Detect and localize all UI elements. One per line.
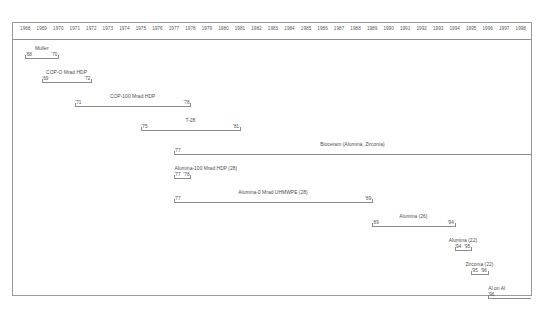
timeline-row: Alumina (22)'94'95 <box>13 232 531 256</box>
timeline-bar-end-cap <box>488 271 489 275</box>
timeline-row: Bioceram (Alumina, Zirconia)'77 <box>13 136 531 160</box>
year-tick-1979: 1979 <box>202 26 212 32</box>
year-tick-1990: 1990 <box>383 26 393 32</box>
timeline-end-year: '70 <box>51 52 57 58</box>
timeline-bar <box>174 154 531 155</box>
year-tick-1994: 1994 <box>449 26 459 32</box>
timeline-label: COP-O Mrad HDP <box>46 69 87 76</box>
timeline-end-year: '81 <box>233 124 239 130</box>
timeline-label: COP-100 Mrad HDP <box>110 93 155 100</box>
year-tick-1983: 1983 <box>268 26 278 32</box>
timeline-label: Alumina (22) <box>449 237 477 244</box>
timeline-start-year: '94 <box>455 244 461 250</box>
timeline-bar <box>488 298 531 299</box>
timeline-bar <box>25 58 58 59</box>
timeline-row: Al on Al'96 <box>13 280 531 304</box>
timeline-end-year: '78 <box>183 172 189 178</box>
timeline-start-year: '77 <box>174 148 180 154</box>
timeline-end-year: '95 <box>464 244 470 250</box>
timeline-bar-end-cap <box>240 127 241 131</box>
year-tick-1974: 1974 <box>119 26 129 32</box>
timeline-start-year: '68 <box>26 52 32 58</box>
timeline-bar-end-cap <box>58 55 59 59</box>
year-tick-1980: 1980 <box>218 26 228 32</box>
timeline-label: T-28 <box>185 117 195 124</box>
timeline-start-year: '71 <box>75 100 81 106</box>
year-tick-1992: 1992 <box>416 26 426 32</box>
year-tick-1970: 1970 <box>53 26 63 32</box>
timeline-bar-end-cap <box>471 247 472 251</box>
timeline-end-year: '94 <box>448 220 454 226</box>
timeline-row: Muller'68'70 <box>13 40 531 64</box>
year-tick-1977: 1977 <box>169 26 179 32</box>
year-tick-1998: 1998 <box>516 26 526 32</box>
timeline-bar-end-cap <box>190 175 191 179</box>
timeline-bar <box>42 82 92 83</box>
year-tick-1981: 1981 <box>235 26 245 32</box>
timeline-start-year: '95 <box>472 268 478 274</box>
year-tick-1975: 1975 <box>136 26 146 32</box>
year-tick-1986: 1986 <box>317 26 327 32</box>
timeline-end-year: '72 <box>84 76 90 82</box>
timeline-start-year: '96 <box>488 292 494 298</box>
year-tick-1968: 1968 <box>20 26 30 32</box>
timeline-label: Alumina (26) <box>399 213 427 220</box>
timeline-row: Alumina-0 Mrad UHMWPE (28)'77'89 <box>13 184 531 208</box>
timeline-label: Alumina-100 Mrad HDP (28) <box>174 165 237 172</box>
year-tick-1984: 1984 <box>284 26 294 32</box>
timeline-row: Alumina-100 Mrad HDP (28)'77'78 <box>13 160 531 184</box>
year-axis: 1968196919701971197219731974197519761977… <box>13 23 531 40</box>
timeline-row: T-28'75'81 <box>13 112 531 136</box>
year-tick-1976: 1976 <box>152 26 162 32</box>
timeline-bar <box>174 202 372 203</box>
year-tick-1993: 1993 <box>433 26 443 32</box>
timeline-label: Zirconia (22) <box>465 261 493 268</box>
timeline-row: Alumina (26)'89'94 <box>13 208 531 232</box>
timeline-bar <box>455 250 472 251</box>
timeline-label: Al on Al <box>488 285 505 292</box>
timeline-rows: Muller'68'70COP-O Mrad HDP'69'72COP-100 … <box>13 40 531 295</box>
timeline-bar-end-cap <box>372 199 373 203</box>
timeline-end-year: '89 <box>365 196 371 202</box>
year-tick-1972: 1972 <box>86 26 96 32</box>
timeline-end-year: '78 <box>183 100 189 106</box>
timeline-start-year: '77 <box>174 172 180 178</box>
timeline-row: COP-100 Mrad HDP'71'78 <box>13 88 531 112</box>
timeline-bar <box>75 106 191 107</box>
timeline-bar <box>141 130 240 131</box>
timeline-start-year: '89 <box>373 220 379 226</box>
timeline-row: Zirconia (22)'95'96 <box>13 256 531 280</box>
timeline-bar-end-cap <box>91 79 92 83</box>
timeline-bar <box>174 178 191 179</box>
year-tick-1982: 1982 <box>251 26 261 32</box>
year-tick-1996: 1996 <box>482 26 492 32</box>
timeline-bar <box>372 226 455 227</box>
timeline-chart: 1968196919701971197219731974197519761977… <box>12 22 532 296</box>
timeline-row: COP-O Mrad HDP'69'72 <box>13 64 531 88</box>
timeline-bar <box>471 274 488 275</box>
year-tick-1973: 1973 <box>103 26 113 32</box>
timeline-label: Muller <box>35 45 49 52</box>
year-tick-1995: 1995 <box>466 26 476 32</box>
year-tick-1987: 1987 <box>334 26 344 32</box>
year-tick-1989: 1989 <box>367 26 377 32</box>
timeline-label: Bioceram (Alumina, Zirconia) <box>320 141 384 148</box>
year-tick-1969: 1969 <box>37 26 47 32</box>
year-tick-1991: 1991 <box>400 26 410 32</box>
timeline-bar-end-cap <box>190 103 191 107</box>
timeline-start-year: '69 <box>42 76 48 82</box>
timeline-bar-end-cap <box>455 223 456 227</box>
year-tick-1985: 1985 <box>301 26 311 32</box>
year-tick-1978: 1978 <box>185 26 195 32</box>
timeline-label: Alumina-0 Mrad UHMWPE (28) <box>238 189 308 196</box>
timeline-start-year: '77 <box>174 196 180 202</box>
year-tick-1971: 1971 <box>70 26 80 32</box>
timeline-start-year: '75 <box>141 124 147 130</box>
timeline-end-year: '96 <box>481 268 487 274</box>
year-tick-1997: 1997 <box>499 26 509 32</box>
year-tick-1988: 1988 <box>350 26 360 32</box>
